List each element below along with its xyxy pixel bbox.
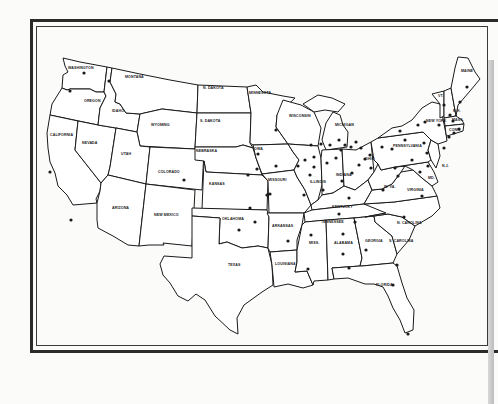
state-label: W. VA. [384,185,396,189]
location-dot[interactable] [425,151,428,154]
location-dot[interactable] [68,89,71,92]
state-label: N.H. [453,109,461,113]
location-dot[interactable] [442,103,445,106]
state-label: VIRGINIA [407,188,424,192]
location-dot[interactable] [416,123,419,126]
location-dot[interactable] [347,196,350,199]
location-dot[interactable] [452,131,455,134]
location-dot[interactable] [182,178,185,181]
location-dot[interactable] [337,212,340,215]
location-dot[interactable] [465,85,468,88]
location-dot[interactable] [306,267,309,270]
state-label: WISCONSIN [289,114,311,118]
state-wyoming[interactable] [137,109,197,149]
location-dot[interactable] [369,166,372,169]
location-dot[interactable] [390,147,393,150]
location-dot[interactable] [296,164,299,167]
location-dot[interactable] [447,135,450,138]
location-dot[interactable] [253,220,256,223]
location-dot[interactable] [349,145,352,148]
state-label: S. CAROLINA [389,239,414,243]
location-dot[interactable] [437,123,440,126]
location-dot[interactable] [357,163,360,166]
location-dot[interactable] [246,173,249,176]
location-dot[interactable] [354,140,357,143]
location-dot[interactable] [319,142,322,145]
location-dot[interactable] [256,152,259,155]
location-dot[interactable] [442,146,445,149]
location-dot[interactable] [406,332,409,335]
location-dot[interactable] [328,143,331,146]
location-dot[interactable] [343,143,346,146]
location-dot[interactable] [402,215,405,218]
state-label: CALIFORNIA [50,133,73,137]
state-label: MICHIGAN [335,123,354,127]
location-dot[interactable] [312,165,315,168]
state-label: IOWA [253,147,263,151]
location-dot[interactable] [82,71,85,74]
state-washington[interactable] [62,58,107,92]
location-dot[interactable] [339,148,342,151]
location-dot[interactable] [403,138,406,141]
location-dot[interactable] [391,283,394,286]
state-florida[interactable] [332,263,414,333]
location-dot[interactable] [248,206,251,209]
location-dot[interactable] [325,161,328,164]
state-label: LOUISIANA [275,262,296,266]
location-dot[interactable] [309,143,312,146]
location-dot[interactable] [312,155,315,158]
location-dot[interactable] [308,173,311,176]
location-dot[interactable] [237,228,240,231]
location-dot[interactable] [69,218,72,221]
location-dot[interactable] [363,157,366,160]
location-dot[interactable] [451,119,454,122]
state-label: INDIANA [336,173,352,177]
location-dot[interactable] [396,174,399,177]
location-dot[interactable] [340,179,343,182]
location-dot[interactable] [420,194,423,197]
location-dot[interactable] [274,128,277,131]
location-dot[interactable] [347,266,350,269]
location-dot[interactable] [334,156,337,159]
location-dot[interactable] [309,233,312,236]
state-label: NEVADA [82,141,98,145]
state-label: OREGON [84,99,101,103]
location-dot[interactable] [395,263,398,266]
location-dot[interactable] [302,193,305,196]
location-dot[interactable] [265,193,268,196]
location-dot[interactable] [48,170,51,173]
location-dot[interactable] [268,192,271,195]
location-dot[interactable] [458,100,461,103]
location-dot[interactable] [423,120,426,123]
location-dot[interactable] [398,129,401,132]
state-montana[interactable] [110,68,198,114]
location-dot[interactable] [364,248,367,251]
location-dot[interactable] [341,232,344,235]
location-dot[interactable] [350,171,353,174]
location-dot[interactable] [359,146,362,149]
location-dot[interactable] [426,164,429,167]
location-dot[interactable] [303,158,306,161]
location-dot[interactable] [457,127,460,130]
location-dot[interactable] [418,170,421,173]
location-dot[interactable] [255,167,258,170]
location-dot[interactable] [107,79,110,82]
location-dot[interactable] [274,164,277,167]
state-arizona[interactable] [97,175,146,246]
location-dot[interactable] [321,188,324,191]
location-dot[interactable] [393,166,396,169]
location-dot[interactable] [353,220,356,223]
location-dot[interactable] [337,138,340,141]
location-dot[interactable] [341,252,344,255]
state-label: KANSAS [209,182,225,186]
location-dot[interactable] [422,141,425,144]
state-label: ARIZONA [112,206,129,210]
location-dot[interactable] [286,239,289,242]
location-dot[interactable] [380,145,383,148]
location-dot[interactable] [410,158,413,161]
location-dot[interactable] [368,153,371,156]
location-dot[interactable] [448,113,451,116]
location-dot[interactable] [381,188,384,191]
state-label: MD. [428,176,435,180]
